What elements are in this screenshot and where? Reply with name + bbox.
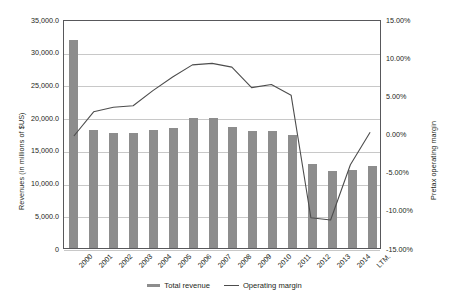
x-axis-tick-label: 2008: [236, 252, 254, 270]
y-axis-left-title: Revenues (in millions of $US): [17, 112, 26, 210]
x-axis-tick-label: 2005: [176, 252, 194, 270]
x-axis-tick-label: 2010: [275, 252, 293, 270]
legend-bar-swatch-icon: [147, 284, 160, 287]
y-axis-left-tick-label: 0: [10, 246, 59, 253]
x-axis-tick-label: 2011: [295, 252, 312, 269]
x-axis-tick-label: 2009: [255, 252, 273, 270]
chart-legend: Total revenueOperating margin: [0, 281, 449, 290]
y-axis-left-tick-label: 30,000.0: [10, 49, 59, 56]
x-axis-tick-label: 2001: [96, 252, 114, 270]
x-axis-tick-label: LTM.: [375, 252, 393, 270]
line-series-operating-margin: [64, 21, 380, 248]
x-axis-tick-label: 2013: [335, 252, 353, 270]
y-axis-right-tick-label: 5.00%: [386, 93, 406, 100]
gridline: [64, 250, 380, 251]
x-axis-tick-label: 2012: [315, 252, 333, 270]
chart-container: Revenues (in millions of $US) Pretax ope…: [0, 0, 449, 300]
x-axis-tick-label: 2000: [77, 252, 95, 270]
legend-item[interactable]: Total revenue: [147, 281, 210, 290]
plot-area: [63, 20, 381, 249]
y-axis-left-tick-label: 15,000.0: [10, 147, 59, 154]
y-axis-right-tick-label: 10.00%: [386, 55, 410, 62]
legend-label: Operating margin: [243, 281, 302, 290]
x-axis-tick-label: 2002: [116, 252, 134, 270]
y-axis-right-title: Pretax operating margin: [429, 121, 438, 200]
x-axis-tick-label: 2006: [196, 252, 214, 270]
x-axis-tick-label: 2007: [216, 252, 234, 270]
legend-item[interactable]: Operating margin: [224, 281, 302, 290]
x-axis-tick-label: 2014: [355, 252, 373, 270]
y-axis-right-tick-label: 0.00%: [386, 131, 406, 138]
y-axis-right-tick-label: -15.00%: [386, 246, 413, 253]
x-axis-tick-label: 2003: [136, 252, 154, 270]
y-axis-left-tick-label: 10,000.0: [10, 180, 59, 187]
y-axis-left-tick-label: 20,000.0: [10, 115, 59, 122]
y-axis-left-tick-label: 35,000.0: [10, 17, 59, 24]
y-axis-right-tick-label: -5.00%: [386, 169, 409, 176]
x-axis-tick-label: 2004: [156, 252, 174, 270]
legend-line-swatch-icon: [224, 285, 239, 286]
y-axis-left-tick-label: 5,000.0: [10, 213, 59, 220]
y-axis-right-tick-label: 15.00%: [386, 17, 410, 24]
legend-label: Total revenue: [164, 281, 210, 290]
y-axis-left-tick-label: 25,000.0: [10, 82, 59, 89]
y-axis-right-tick-label: -10.00%: [386, 207, 413, 214]
